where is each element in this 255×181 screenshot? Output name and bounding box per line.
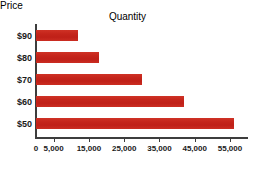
y-tick-label: $90: [2, 31, 32, 41]
y-tick-label: $70: [2, 75, 32, 85]
x-axis-line: [35, 137, 248, 139]
x-tick-label: 25,000: [112, 144, 136, 153]
y-axis-title: Price: [0, 0, 255, 11]
y-tick-label: $50: [2, 119, 32, 129]
x-tick-label: 35,000: [147, 144, 171, 153]
x-tick-label: 0: [34, 144, 38, 153]
x-axis-title: Quantity: [0, 11, 255, 22]
x-tick-mark: [159, 138, 160, 142]
x-tick-mark: [195, 138, 196, 142]
bar-fill: [36, 52, 99, 63]
bar-chart: Price $90$80$70$60$50 05,00015,00025,000…: [0, 0, 255, 181]
x-tick-label: 5,000: [44, 144, 64, 153]
bar-fill: [36, 30, 78, 41]
x-tick-label: 15,000: [77, 144, 101, 153]
x-tick-label: 55,000: [218, 144, 242, 153]
x-tick-mark: [89, 138, 90, 142]
y-tick-label: $60: [2, 97, 32, 107]
bar-price-60: [36, 96, 184, 107]
y-tick-label: $80: [2, 53, 32, 63]
bar-fill: [36, 118, 234, 129]
bar-fill: [36, 96, 184, 107]
x-tick-mark: [124, 138, 125, 142]
x-tick-label: 45,000: [182, 144, 206, 153]
bar-price-80: [36, 52, 99, 63]
bar-fill: [36, 74, 142, 85]
bar-price-70: [36, 74, 142, 85]
x-tick-mark: [230, 138, 231, 142]
bar-price-90: [36, 30, 78, 41]
x-tick-mark: [54, 138, 55, 142]
bar-price-50: [36, 118, 234, 129]
